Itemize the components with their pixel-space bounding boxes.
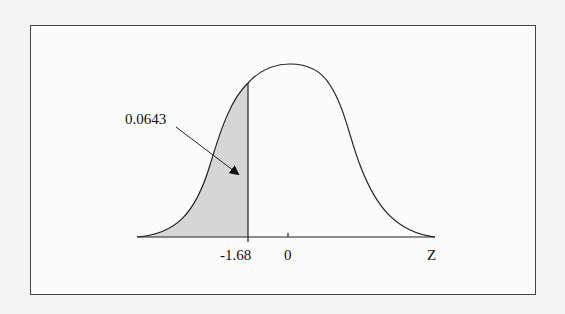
tick-label-zero: 0	[284, 247, 292, 264]
axis-label-z: Z	[427, 247, 436, 264]
tick-label-neg: -1.68	[220, 247, 251, 264]
normal-curve-chart	[0, 0, 565, 314]
area-label: 0.0643	[125, 111, 166, 128]
normal-curve	[137, 64, 435, 237]
